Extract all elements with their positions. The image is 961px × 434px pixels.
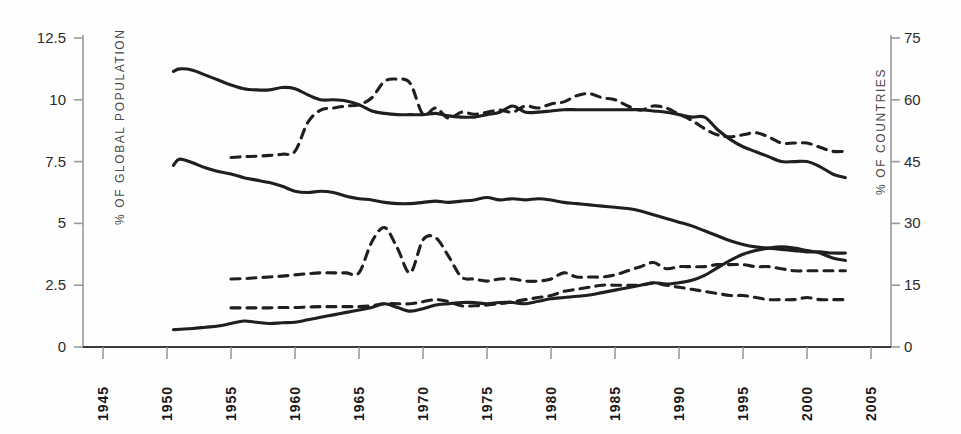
y-axis-right-title: % OF COUNTRIES	[874, 68, 888, 195]
y-axis-left-tick-label: 2.5	[0, 276, 66, 293]
series-line-population-lower-solid	[173, 247, 845, 330]
chart-plot-area	[0, 0, 961, 434]
x-axis-tick-label: 1995	[735, 386, 751, 421]
y-axis-right-tick-label: 60	[904, 91, 921, 108]
series-line-population-upper-solid	[173, 69, 845, 178]
x-axis-tick-label: 2000	[799, 386, 815, 421]
series-line-countries-lower-dashed	[231, 283, 845, 308]
y-axis-right-tick-label: 45	[904, 153, 921, 170]
y-axis-left-tick-label: 7.5	[0, 153, 66, 170]
y-axis-left-tick-label: 0	[0, 338, 66, 355]
y-axis-right-tick-label: 15	[904, 276, 921, 293]
y-axis-right-tick-label: 0	[904, 338, 912, 355]
x-axis-tick-label: 2005	[863, 386, 879, 421]
x-axis-tick-label: 1950	[159, 386, 175, 421]
y-axis-left-tick-label: 5	[0, 214, 66, 231]
x-axis-tick-label: 1955	[223, 386, 239, 421]
y-axis-right-tick-label: 30	[904, 214, 921, 231]
x-axis-tick-label: 1945	[95, 386, 111, 421]
series-line-countries-middle-dashed	[231, 227, 845, 281]
y-axis-right-tick-label: 75	[904, 29, 921, 46]
y-axis-left-title: % OF GLOBAL POPULATION	[113, 28, 127, 225]
x-axis-tick-label: 1975	[479, 386, 495, 421]
x-axis-tick-label: 1990	[671, 386, 687, 421]
x-axis-tick-label: 1985	[607, 386, 623, 421]
series-line-countries-upper-dashed	[231, 79, 845, 158]
x-axis-tick-label: 1960	[287, 386, 303, 421]
x-axis-tick-label: 1965	[351, 386, 367, 421]
y-axis-left-tick-label: 10	[0, 91, 66, 108]
chart-container: % OF GLOBAL POPULATION % OF COUNTRIES 02…	[0, 0, 961, 434]
x-axis-tick-label: 1970	[415, 386, 431, 421]
y-axis-left-tick-label: 12.5	[0, 29, 66, 46]
series-line-population-middle-solid	[173, 159, 845, 253]
x-axis-tick-label: 1980	[543, 386, 559, 421]
